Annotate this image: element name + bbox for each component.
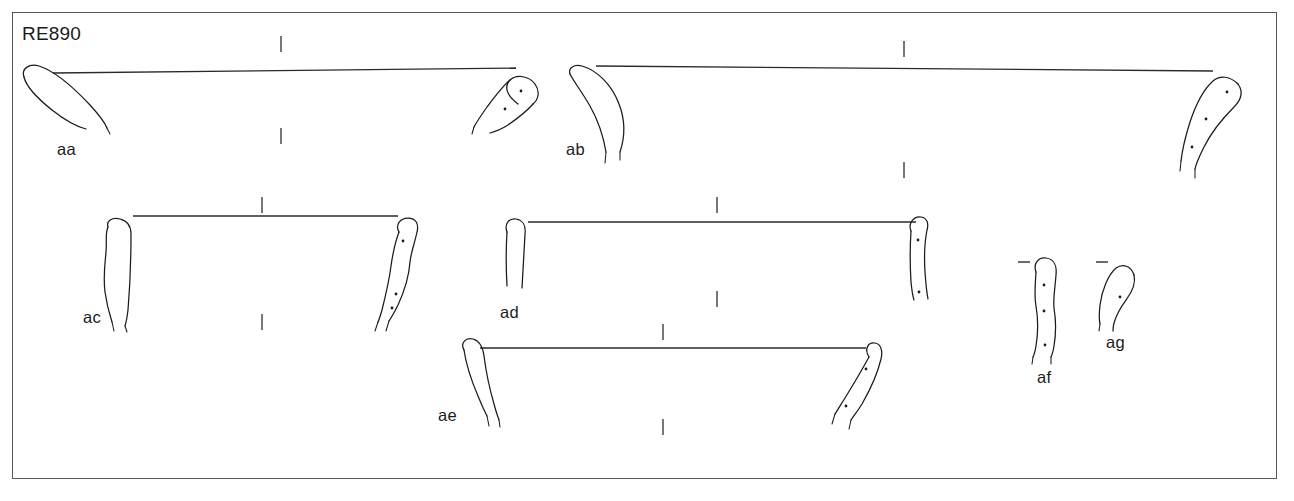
fragment-label-ac: ac: [83, 308, 101, 327]
fragment-label-ae: ae: [438, 406, 457, 425]
plate-frame-border: [12, 12, 1277, 479]
fragment-label-ag: ag: [1106, 333, 1125, 352]
illustration-plate: RE890: [0, 0, 1294, 501]
fragment-label-aa: aa: [57, 140, 76, 159]
page-title: RE890: [22, 23, 81, 45]
fragment-label-ab: ab: [566, 140, 585, 159]
fragment-label-ad: ad: [500, 303, 519, 322]
fragment-label-af: af: [1037, 368, 1051, 387]
